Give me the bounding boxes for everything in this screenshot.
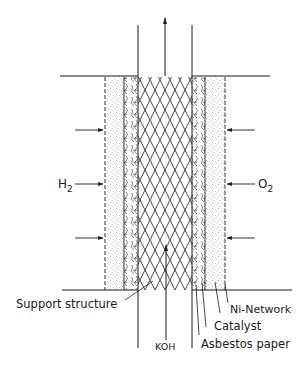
support-structure-label: Support structure [16, 297, 117, 311]
support-structure-mesh [138, 76, 192, 348]
h2-inlet-arrows [75, 130, 103, 238]
cathode-catalyst-layer [205, 77, 225, 290]
ni-network-label: Ni-Network [230, 303, 292, 316]
anode-catalyst-layer [105, 77, 124, 290]
anode-electrode [105, 77, 138, 290]
anode-asbestos-layer [124, 77, 138, 290]
fuel-cell-diagram: H2 O2 KOH Support structure Ni-Network C… [0, 0, 308, 372]
h2-label: H2 [58, 177, 73, 194]
cathode-asbestos-layer [192, 77, 205, 290]
o2-inlet-arrows [227, 130, 255, 238]
o2-label: O2 [258, 177, 273, 194]
koh-label: KOH [155, 341, 175, 352]
cathode-electrode [192, 77, 225, 290]
outlet-pipe [138, 18, 192, 76]
asbestos-paper-label: Asbestos paper [201, 337, 290, 351]
catalyst-label: Catalyst [214, 319, 262, 333]
